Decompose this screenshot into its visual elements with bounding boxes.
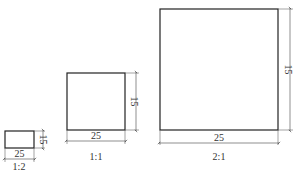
width-dimension-label: 25	[91, 130, 101, 141]
rectangle-2-1	[160, 9, 278, 130]
height-dimension-label: 15	[129, 97, 140, 107]
width-dimension-label: 25	[214, 132, 224, 143]
figure-scale-2-1: 25 15 2:1	[159, 8, 294, 162]
figure-scale-1-1: 25 15 1:1	[66, 72, 140, 162]
height-dimension-label: 15	[283, 65, 294, 75]
figure-scale-1-2: 25 15 1:2	[4, 130, 49, 172]
rectangle-1-1	[67, 73, 125, 130]
scale-label-1-2: 1:2	[13, 161, 26, 172]
scale-label-1-1: 1:1	[90, 151, 103, 162]
scale-diagram: 25 15 1:2 25 15 1:1 25 15 2:1	[0, 0, 298, 172]
scale-label-2-1: 2:1	[213, 151, 226, 162]
rectangle-1-2	[5, 131, 34, 148]
width-dimension-label: 25	[15, 148, 25, 159]
height-dimension-label: 15	[38, 135, 49, 145]
